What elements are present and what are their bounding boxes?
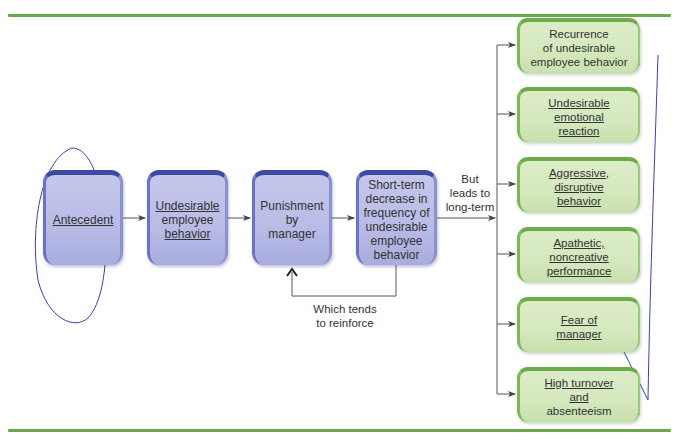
box-label: Punishment by manager: [260, 199, 323, 241]
outcome-label: High turnover and absenteeism: [544, 376, 613, 418]
box-antecedent: Antecedent: [43, 170, 123, 265]
outcome-label: Fear of manager: [556, 313, 601, 341]
outcome-fear: Fear of manager: [517, 297, 640, 352]
box-undesirable-behavior: Undesirable employee behavior: [147, 170, 228, 265]
box-label: Antecedent: [53, 213, 114, 227]
box-short-term-decrease: Short-term decrease in frequency of unde…: [356, 170, 437, 265]
outcome-label: Undesirable emotional reaction: [548, 96, 609, 138]
outcome-turnover: High turnover and absenteeism: [517, 367, 640, 422]
outcome-recurrence: Recurrence of undesirable employee behav…: [517, 18, 640, 73]
outcome-emotional-reaction: Undesirable emotional reaction: [517, 87, 640, 142]
outcome-label: Apathetic, noncreative performance: [547, 236, 612, 278]
outcome-apathetic: Apathetic, noncreative performance: [517, 227, 640, 282]
feedback-label: Which tends to reinforce: [300, 302, 390, 330]
branch-label: But leads to long-term: [442, 172, 498, 214]
outcome-aggressive: Aggressive, disruptive behavior: [517, 157, 640, 212]
outcome-label: Recurrence of undesirable employee behav…: [530, 27, 627, 69]
outcome-label: Aggressive, disruptive behavior: [549, 166, 609, 208]
box-label: Undesirable employee behavior: [155, 199, 219, 241]
box-punishment: Punishment by manager: [252, 170, 332, 265]
feedback-loop: [292, 265, 396, 296]
box-label: Short-term decrease in frequency of unde…: [363, 178, 429, 262]
